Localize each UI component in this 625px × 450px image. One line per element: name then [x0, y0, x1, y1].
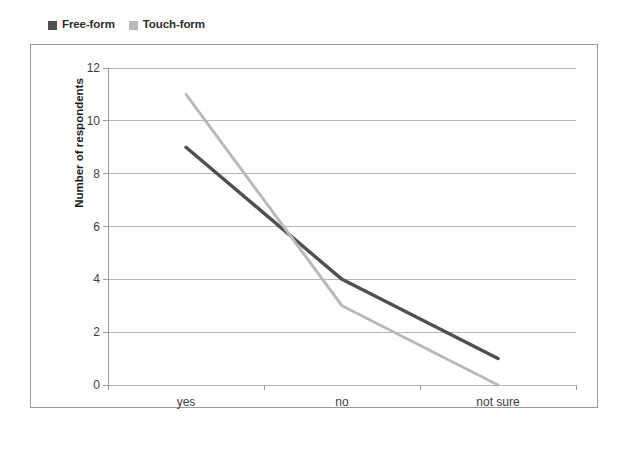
- y-axis-title: Number of respondents: [73, 48, 85, 238]
- y-tick-label: 4: [93, 272, 100, 286]
- series-line: [186, 94, 498, 385]
- legend-entry-touch-form: Touch-form: [129, 19, 205, 31]
- y-tick-label: 10: [87, 114, 100, 128]
- plot-svg: [108, 68, 576, 385]
- gridlines-group: [108, 68, 576, 385]
- y-tick-label: 0: [93, 378, 100, 392]
- plot-area: 024681012 yesnonot sure: [108, 68, 576, 385]
- chart-plot-frame: Number of respondents 024681012 yesnonot…: [30, 44, 598, 408]
- legend-swatch-touch-form: [129, 21, 138, 30]
- x-tick-label: yes: [177, 395, 196, 409]
- legend-entry-free-form: Free-form: [48, 19, 115, 31]
- series-line: [186, 147, 498, 358]
- legend-label-free-form: Free-form: [62, 19, 115, 31]
- series-group: [186, 94, 498, 385]
- x-tick-label: not sure: [476, 395, 519, 409]
- chart-legend: Free-form Touch-form: [48, 16, 205, 34]
- legend-label-touch-form: Touch-form: [143, 19, 205, 31]
- axes-group: [103, 68, 576, 390]
- x-tick-label: no: [335, 395, 348, 409]
- y-tick-label: 6: [93, 220, 100, 234]
- y-tick-label: 8: [93, 167, 100, 181]
- legend-swatch-free-form: [48, 21, 57, 30]
- y-tick-label: 12: [87, 61, 100, 75]
- chart-figure: Free-form Touch-form Number of responden…: [0, 0, 625, 450]
- y-tick-label: 2: [93, 325, 100, 339]
